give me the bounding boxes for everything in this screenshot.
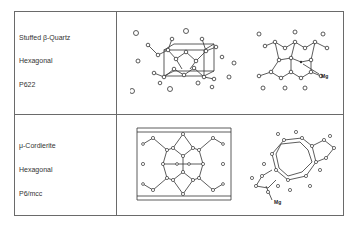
row-2-name: μ-Cordierite <box>19 142 56 149</box>
row-1-name: Stuffed β-Quartz <box>19 34 70 41</box>
cordierite-ring-figure: Mg <box>250 130 340 205</box>
row-1-system: Hexagonal <box>19 57 52 64</box>
row-2-space-group: P6/mcc <box>19 190 42 197</box>
cordierite-unit-cell-figure <box>133 122 238 210</box>
quartz-framework-figure: Mg <box>255 28 340 93</box>
row-divider <box>15 114 343 115</box>
mg-label-1: Mg <box>321 73 328 79</box>
row-1-space-group: P622 <box>19 81 35 88</box>
mg-label-2: Mg <box>274 199 281 205</box>
column-divider <box>116 12 117 215</box>
quartz-unit-cell-figure <box>130 25 240 100</box>
row-2-system: Hexagonal <box>19 166 52 173</box>
